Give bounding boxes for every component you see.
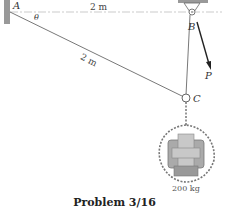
mass-label: 200 kg: [172, 184, 200, 193]
force-p-arrow: [197, 22, 209, 64]
point-b-label: B: [188, 22, 195, 32]
problem-caption: Problem 3/16: [0, 196, 229, 209]
wall-support: [4, 0, 10, 24]
dimension-ab: 2 m: [90, 3, 107, 12]
point-c-label: C: [193, 94, 201, 104]
angle-theta-label: θ: [34, 14, 39, 22]
point-a-label: A: [13, 1, 20, 11]
cable-ac: [10, 12, 184, 97]
force-p-label: P: [205, 71, 212, 81]
ring-c: [182, 94, 190, 102]
ceiling-support: [178, 0, 208, 3]
